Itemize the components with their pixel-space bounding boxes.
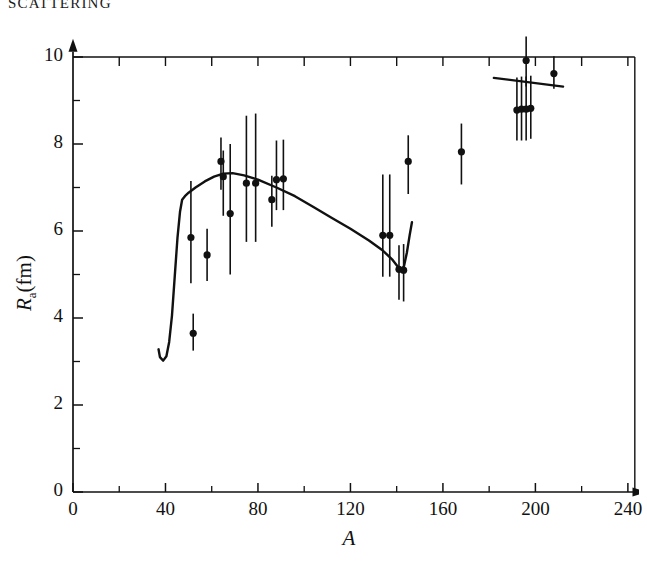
- y-tick-label-10: 10: [17, 44, 63, 66]
- data-point: [280, 140, 287, 210]
- data-point: [405, 135, 412, 194]
- x-tick-label-0: 0: [49, 498, 97, 520]
- data-point: [458, 124, 465, 185]
- data-point: [190, 314, 197, 351]
- y-axis-title: Ra(fm): [12, 255, 40, 311]
- y-tick-label-8: 8: [17, 131, 63, 153]
- x-tick-label-120: 120: [326, 498, 374, 520]
- data-point: [379, 174, 386, 276]
- data-point: [523, 37, 530, 87]
- data-point: [203, 229, 210, 281]
- data-point: [527, 76, 534, 139]
- data-point: [550, 56, 557, 89]
- curve-short-segment-curve: [494, 78, 563, 87]
- x-tick-label-40: 40: [141, 498, 189, 520]
- data-point: [187, 181, 194, 283]
- x-tick-label-160: 160: [419, 498, 467, 520]
- curve-layer: [159, 78, 564, 361]
- x-tick-label-80: 80: [234, 498, 282, 520]
- x-tick-label-200: 200: [511, 498, 559, 520]
- axes-layer: [69, 39, 640, 497]
- x-axis-title: A: [342, 526, 355, 551]
- y-tick-label-0: 0: [17, 479, 63, 501]
- data-point: [227, 144, 234, 275]
- data-point: [243, 116, 250, 242]
- y-tick-label-6: 6: [17, 218, 63, 240]
- data-points-layer: [187, 37, 557, 351]
- y-tick-label-2: 2: [17, 392, 63, 414]
- x-tick-label-240: 240: [604, 498, 647, 520]
